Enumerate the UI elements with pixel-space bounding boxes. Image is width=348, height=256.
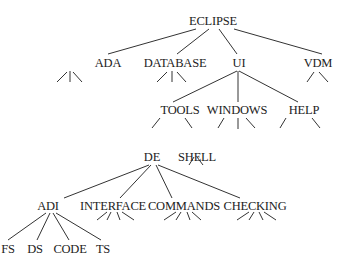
tree-edge: [237, 212, 249, 220]
node-help: HELP: [289, 104, 319, 117]
tree-edge: [164, 212, 176, 220]
tree-edge: [37, 213, 50, 240]
tree-edge: [8, 213, 46, 240]
tree-edge: [53, 213, 69, 240]
node-eclipse: ECLIPSE: [189, 15, 237, 28]
tree-edge: [108, 29, 196, 54]
node-ada: ADA: [95, 57, 121, 70]
tree-edge: [234, 29, 322, 54]
node-commands: COMMANDS: [148, 200, 220, 213]
tree-diagram: ECLIPSE ADA DATABASE UI VDM TOOLS WINDOW…: [0, 0, 348, 256]
tree-edge: [219, 29, 237, 54]
node-code: CODE: [53, 243, 86, 256]
tree-edge: [176, 212, 181, 220]
tree-edge: [312, 118, 320, 128]
tree-edge: [157, 72, 167, 82]
tree-edge: [117, 212, 120, 220]
tree-edge: [239, 71, 298, 102]
tree-edges: [0, 0, 348, 256]
node-shell: SHELL: [178, 151, 216, 164]
tree-edge: [187, 212, 190, 220]
node-database: DATABASE: [144, 57, 207, 70]
node-fs: FS: [1, 243, 15, 256]
node-interface: INTERFACE: [80, 200, 146, 213]
tree-edge: [259, 212, 263, 220]
node-vdm: VDM: [304, 57, 333, 70]
tree-edge: [246, 118, 255, 128]
tree-edge: [280, 118, 286, 128]
tree-edge: [122, 212, 134, 220]
node-adi: ADI: [37, 200, 59, 213]
tree-edge: [64, 165, 149, 198]
tree-edge: [264, 212, 276, 220]
node-ds: DS: [27, 243, 43, 256]
tree-edge: [319, 72, 328, 82]
tree-edge: [73, 72, 82, 82]
node-tools: TOOLS: [160, 104, 199, 117]
tree-edge: [107, 212, 111, 220]
tree-edge: [57, 72, 67, 82]
tree-edge: [218, 118, 224, 128]
node-windows: WINDOWS: [207, 104, 267, 117]
tree-edge: [158, 165, 240, 198]
tree-edge: [185, 118, 192, 128]
tree-edge: [177, 72, 186, 82]
tree-edge: [307, 72, 314, 82]
tree-edge: [152, 118, 160, 128]
tree-edge: [56, 213, 101, 240]
tree-edge: [97, 212, 107, 220]
node-de: DE: [144, 151, 160, 164]
tree-edge: [192, 212, 201, 220]
tree-edge: [249, 212, 254, 220]
node-ts: TS: [96, 243, 110, 256]
tree-edge: [173, 71, 237, 102]
node-checking: CHECKING: [224, 200, 287, 213]
node-ui: UI: [233, 57, 246, 70]
